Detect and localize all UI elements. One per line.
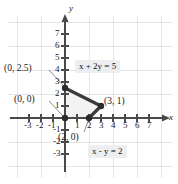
y-tick-5: 5 bbox=[55, 53, 60, 62]
marker-0-0 bbox=[62, 115, 68, 121]
y-axis-label: y bbox=[69, 4, 73, 13]
point-label-3-1: (3, 1) bbox=[104, 97, 125, 107]
x-axis-label: x bbox=[169, 113, 173, 122]
x-tick-3: 3 bbox=[99, 121, 104, 130]
marker-0-2.5 bbox=[62, 85, 68, 91]
y-tick-4: 4 bbox=[55, 65, 60, 74]
point-label-2-0: (2, 0) bbox=[58, 133, 79, 143]
coordinate-graph-figure: x y -3 -2 -1 1 2 3 4 5 6 7 7 6 5 4 3 2 1… bbox=[0, 0, 178, 184]
x-tick-6: 6 bbox=[135, 121, 140, 130]
equation-label-2: x - y = 2 bbox=[88, 145, 127, 158]
y-tick-3: 3 bbox=[55, 77, 60, 86]
x-tick-5: 5 bbox=[123, 121, 128, 130]
y-tick-6: 6 bbox=[55, 41, 60, 50]
x-tick-2: 2 bbox=[87, 121, 92, 130]
x-tick--2: -2 bbox=[36, 121, 44, 130]
y-tick-2: 2 bbox=[55, 89, 60, 98]
point-label-0-0: (0, 0) bbox=[14, 95, 35, 105]
y-tick--3: -3 bbox=[53, 149, 61, 158]
y-tick-1: 1 bbox=[55, 101, 60, 110]
point-label-0-2.5: (0, 2.5) bbox=[4, 64, 32, 74]
x-tick--3: -3 bbox=[24, 121, 32, 130]
x-tick-1: 1 bbox=[75, 121, 80, 130]
equation-label-1: x + 2y = 5 bbox=[75, 60, 120, 73]
x-tick-4: 4 bbox=[111, 121, 116, 130]
x-tick-7: 7 bbox=[147, 121, 152, 130]
y-tick-7: 7 bbox=[55, 29, 60, 38]
